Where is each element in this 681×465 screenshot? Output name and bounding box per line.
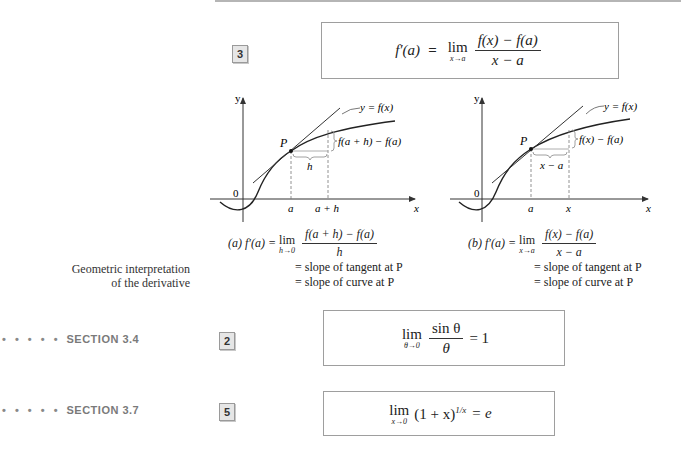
y-axis-label: y — [474, 92, 480, 104]
lim-subscript: h→0 — [279, 246, 295, 255]
x-axis-label: x — [645, 202, 651, 214]
section-label: SECTION 3.7 — [66, 404, 139, 416]
difference-quotient: f(a + h) − f(a) h — [302, 227, 377, 260]
lim-subscript: θ→0 — [404, 341, 420, 350]
formula-lhs: f′(a) — [395, 42, 420, 59]
numerator: sin θ — [429, 320, 463, 339]
slope-tangent-line: = slope of tangent at P — [534, 260, 642, 275]
section-3-7-label: • • • • •SECTION 3.7 — [2, 404, 139, 416]
slope-tangent-line: = slope of tangent at P — [295, 260, 403, 275]
rise-label: f(x) − f(a) — [579, 133, 623, 146]
point-p — [289, 149, 293, 153]
figure-b-caption: (b) f′(a) = lim x→a f(x) − f(a) x − a = … — [468, 227, 642, 290]
leader-dots: • • • • • — [2, 333, 60, 345]
limit-operator: lim x→a — [519, 233, 535, 255]
tick-a: a — [288, 202, 294, 214]
lim-subscript: x→0 — [391, 417, 407, 426]
exponent: 1/x — [455, 405, 466, 415]
leader-dots: • • • • • — [2, 404, 60, 416]
lim-subscript: x→a — [519, 246, 535, 255]
difference-quotient: f(x) − f(a) x − a — [475, 32, 541, 69]
curve-label: y = f(x) — [603, 100, 637, 113]
numerator: f(x) − f(a) — [542, 227, 596, 244]
caption-prefix: (b) f′(a) = — [468, 236, 516, 251]
section-label: SECTION 3.4 — [66, 333, 139, 345]
formula-number-3: 3 — [232, 45, 248, 63]
rhs: = e — [471, 405, 492, 422]
slope-curve-line: = slope of curve at P — [534, 275, 642, 290]
sin-limit-box: lim θ→0 sin θ θ = 1 — [323, 310, 565, 366]
formula-number-2: 2 — [219, 332, 235, 350]
numerator: f(a + h) − f(a) — [302, 227, 377, 244]
difference-quotient: f(x) − f(a) x − a — [542, 227, 596, 260]
origin-label: 0 — [233, 187, 239, 199]
limit-operator: lim x→a — [448, 39, 468, 63]
derivative-definition-box: f′(a) = lim x→a f(x) − f(a) x − a — [321, 22, 619, 79]
e-limit-box: lim x→0 (1 + x)1/x = e — [323, 391, 555, 436]
sin-over-theta: sin θ θ — [429, 320, 463, 357]
point-label: P — [519, 134, 528, 148]
lim-subscript: x→a — [450, 54, 466, 63]
point-label: P — [279, 136, 288, 150]
denominator: x − a — [556, 244, 581, 260]
denominator: h — [336, 244, 342, 260]
limit-operator: lim θ→0 — [402, 326, 422, 350]
run-label: h — [307, 160, 313, 172]
limit-operator: lim x→0 — [389, 402, 409, 426]
side-note: Geometric interpretation of the derivati… — [40, 262, 190, 290]
section-3-4-label: • • • • •SECTION 3.4 — [2, 333, 139, 345]
figure-b-graph: y x 0 y = f(x) P f(x) − f(a) x − a a x — [430, 90, 660, 230]
figure-a-graph: y x 0 y = f(x) P f(a + h) − f(a) h a a +… — [200, 90, 430, 230]
denominator: θ — [442, 339, 449, 357]
origin-label: 0 — [474, 187, 480, 199]
equals-sign: = — [428, 42, 437, 59]
limit-operator: lim h→0 — [279, 233, 295, 255]
base: (1 + x) — [414, 406, 455, 422]
rise-brace — [331, 131, 337, 151]
base-expression: (1 + x)1/x — [414, 405, 466, 423]
figure-a-caption: (a) f′(a) = lim h→0 f(a + h) − f(a) h = … — [228, 227, 403, 290]
formula-number-5: 5 — [219, 403, 235, 421]
caption-prefix: (a) f′(a) = — [228, 236, 276, 251]
rise-label: f(a + h) − f(a) — [338, 135, 401, 148]
y-axis-label: y — [235, 92, 241, 104]
tangent-line — [253, 108, 340, 183]
tick-x: x — [565, 202, 571, 214]
top-rule — [215, 0, 681, 2]
tick-a-plus-h: a + h — [315, 202, 339, 214]
numerator: f(x) − f(a) — [475, 32, 541, 51]
run-label: x − a — [539, 159, 564, 171]
side-note-line2: of the derivative — [40, 276, 190, 290]
denominator: x − a — [492, 51, 524, 69]
rhs: = 1 — [469, 330, 489, 347]
slope-curve-line: = slope of curve at P — [295, 275, 403, 290]
side-note-line1: Geometric interpretation — [40, 262, 190, 276]
tick-a: a — [528, 202, 534, 214]
x-axis-label: x — [413, 202, 419, 214]
curve-label: y = f(x) — [359, 101, 393, 114]
